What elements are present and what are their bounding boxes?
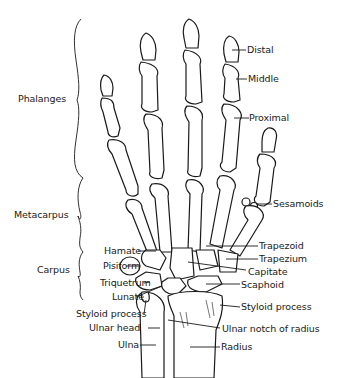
middle-finger-proximal [185, 106, 203, 177]
index-finger-middle [223, 64, 240, 102]
label-middle: Middle [248, 73, 279, 84]
label-ulna: Ulna [118, 339, 139, 350]
group-label-metacarpus: Metacarpus [14, 209, 69, 220]
label-ulnar-head: Ulnar head [89, 322, 140, 333]
label-hamate: Hamate [104, 245, 141, 256]
ring-finger-middle [139, 62, 158, 112]
label-capitate: Capitate [248, 266, 287, 277]
group-label-phalanges: Phalanges [18, 93, 66, 104]
label-lunate: Lunate [112, 291, 144, 302]
label-distal: Distal [247, 44, 274, 55]
middle-finger-distal [183, 19, 199, 48]
hand-skeleton-illustration [0, 0, 339, 378]
index-finger-proximal [220, 104, 241, 172]
middle-finger-middle [183, 50, 202, 104]
carpus-brace [78, 252, 83, 300]
label-styloid-process-radius: Styloid process [241, 301, 312, 312]
label-sesamoids: Sesamoids [273, 198, 323, 209]
label-pisiform: Pisiform [103, 260, 140, 271]
middle-metacarpal [186, 180, 203, 252]
index-metacarpal [210, 176, 235, 248]
ulna-bone [137, 292, 165, 378]
radius-bone [168, 292, 223, 378]
sesamoid-bone-1 [242, 198, 250, 206]
label-triquetrum: Triquetrum [100, 277, 151, 288]
ring-finger-distal [140, 33, 156, 60]
thumb-distal [262, 128, 277, 152]
label-scaphoid: Scaphoid [241, 279, 284, 290]
metacarpus-brace [78, 178, 83, 252]
trapezoid-bone [196, 250, 218, 270]
little-finger-middle [101, 98, 120, 137]
label-ulnar-notch-of-radius: Ulnar notch of radius [222, 323, 320, 334]
label-radius: Radius [221, 341, 252, 352]
capitate-bone [170, 248, 194, 280]
group-label-carpus: Carpus [37, 264, 70, 275]
phalanges-brace [74, 19, 83, 178]
label-trapezium: Trapezium [259, 253, 307, 264]
little-finger-distal [101, 75, 113, 96]
label-proximal: Proximal [249, 112, 289, 123]
index-finger-distal [224, 36, 239, 62]
hamate-bone [142, 250, 167, 270]
label-trapezoid: Trapezoid [259, 240, 304, 251]
label-styloid-process-ulna: Styloid process [76, 308, 147, 319]
ring-finger-proximal [144, 114, 164, 179]
hand-bones-diagram: Phalanges Metacarpus Carpus Distal Middl… [0, 0, 339, 378]
little-finger-proximal [108, 140, 138, 196]
